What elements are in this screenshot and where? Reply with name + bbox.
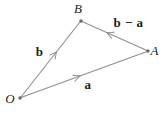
vertex-a-dot	[146, 49, 149, 52]
vector-b-label: b	[36, 44, 44, 59]
vector-a-label: a	[85, 77, 92, 92]
vertex-b-label: B	[74, 1, 82, 16]
vector-b-minus-a-label: b − a	[113, 15, 143, 30]
vertex-o-label: O	[5, 91, 15, 106]
vertex-o-dot	[18, 96, 21, 99]
vertex-b-dot	[79, 19, 82, 22]
edge-o-to-b	[21, 22, 80, 97]
vertex-a-label: A	[150, 43, 159, 58]
vector-triangle-diagram: O B A b a b − a	[0, 0, 161, 116]
diagram-canvas: O B A b a b − a	[0, 0, 161, 116]
